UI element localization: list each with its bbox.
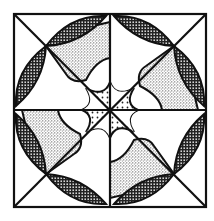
lens-left-top (16, 46, 46, 106)
lens-bottom-left (46, 174, 106, 204)
lens-right-bottom (174, 114, 204, 174)
frame-lines (14, 14, 206, 207)
lens-top-right (114, 16, 174, 46)
quilt-block-diagram (0, 0, 214, 221)
